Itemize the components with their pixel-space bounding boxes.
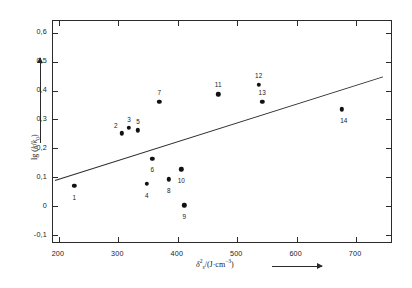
x-tick-label-500: 500 — [221, 249, 251, 258]
x-axis-title: δ2s/(J·cm−3) — [196, 258, 234, 270]
data-point-6 — [150, 156, 154, 160]
x-tick-bottom-300 — [118, 237, 119, 242]
data-point-label-13: 13 — [259, 88, 266, 95]
x-tick-label-200: 200 — [43, 249, 73, 258]
y-tick--0.1 — [53, 235, 58, 236]
data-point-label-8: 8 — [167, 187, 171, 194]
y-tick-0.5 — [53, 62, 58, 63]
x-tick-bottom-500 — [237, 237, 238, 242]
data-point-label-7: 7 — [158, 88, 162, 95]
x-tick-700 — [356, 21, 357, 26]
data-point-label-6: 6 — [150, 165, 154, 172]
data-point-1 — [72, 183, 76, 187]
data-point-11 — [216, 92, 220, 96]
y-tick-right--0.1 — [386, 235, 391, 236]
x-tick-label-600: 600 — [281, 249, 311, 258]
data-point-2 — [120, 131, 124, 135]
data-point-9 — [182, 203, 186, 207]
x-tick-bottom-400 — [178, 237, 179, 242]
data-point-label-10: 10 — [178, 177, 185, 184]
y-tick-label-0: 0 — [23, 201, 47, 210]
plot-area: 1234567891011121314 — [52, 20, 392, 243]
data-point-3 — [127, 125, 131, 129]
y-tick-0.3 — [53, 119, 58, 120]
y-tick-right-0.3 — [386, 119, 391, 120]
x-tick-label-300: 300 — [102, 249, 132, 258]
x-tick-400 — [178, 21, 179, 26]
y-tick-right-0.4 — [386, 91, 391, 92]
data-point-label-11: 11 — [215, 81, 222, 88]
x-tick-300 — [118, 21, 119, 26]
y-tick-0.4 — [53, 91, 58, 92]
y-tick-right-0 — [386, 206, 391, 207]
y-tick-label-0,1: 0,1 — [23, 172, 47, 181]
y-tick-0 — [53, 206, 58, 207]
data-point-12 — [256, 83, 260, 87]
x-tick-500 — [237, 21, 238, 26]
x-axis-direction-arrow — [272, 266, 322, 267]
data-point-label-1: 1 — [73, 193, 77, 200]
data-point-10 — [179, 167, 183, 171]
y-tick-label-0,2: 0,2 — [23, 143, 47, 152]
x-tick-600 — [297, 21, 298, 26]
data-point-5 — [136, 128, 140, 132]
data-point-label-12: 12 — [255, 71, 262, 78]
data-point-label-3: 3 — [127, 115, 131, 122]
x-tick-label-700: 700 — [340, 249, 370, 258]
x-tick-bottom-700 — [356, 237, 357, 242]
y-tick-label-0,6: 0,6 — [23, 27, 47, 36]
data-point-label-2: 2 — [114, 122, 118, 129]
data-point-label-5: 5 — [136, 118, 140, 125]
data-point-8 — [167, 177, 171, 181]
y-tick-label-0,4: 0,4 — [23, 85, 47, 94]
x-tick-200 — [59, 21, 60, 26]
data-point-label-14: 14 — [340, 117, 347, 124]
data-point-4 — [145, 182, 149, 186]
data-point-label-4: 4 — [145, 191, 149, 198]
y-tick-right-0.1 — [386, 177, 391, 178]
data-point-14 — [340, 107, 344, 111]
y-tick-label--0,1: -0,1 — [23, 230, 47, 239]
data-point-label-9: 9 — [183, 213, 187, 220]
y-tick-right-0.2 — [386, 148, 391, 149]
data-point-13 — [260, 99, 264, 103]
data-point-7 — [157, 99, 161, 103]
figure-scatter-plot: lg (k/k0) -0,100,10,20,30,40,50,6 123456… — [0, 0, 412, 288]
y-tick-0.2 — [53, 148, 58, 149]
x-tick-bottom-600 — [297, 237, 298, 242]
y-tick-right-0.5 — [386, 62, 391, 63]
x-tick-bottom-200 — [59, 237, 60, 242]
y-tick-0.6 — [53, 33, 58, 34]
y-tick-label-0,3: 0,3 — [23, 114, 47, 123]
y-tick-right-0.6 — [386, 33, 391, 34]
y-tick-label-0,5: 0,5 — [23, 56, 47, 65]
y-axis-direction-arrow — [40, 58, 41, 143]
x-tick-label-400: 400 — [162, 249, 192, 258]
